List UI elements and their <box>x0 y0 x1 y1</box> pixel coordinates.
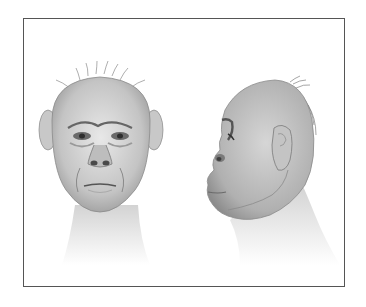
profile-ear <box>272 125 292 170</box>
frontal-face <box>39 61 163 265</box>
illustration <box>0 0 366 307</box>
profile-face <box>207 76 340 265</box>
